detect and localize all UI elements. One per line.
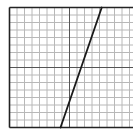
coordinate-grid: [0, 0, 133, 133]
